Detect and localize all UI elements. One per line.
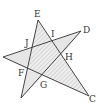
- star-diagram: E D C I J H F G: [0, 0, 100, 103]
- label-g: G: [40, 80, 47, 90]
- label-e: E: [34, 9, 41, 19]
- label-h: H: [65, 52, 73, 62]
- label-i: I: [51, 29, 55, 39]
- label-f: F: [18, 68, 24, 78]
- label-d: D: [83, 25, 90, 35]
- label-j: J: [24, 38, 29, 48]
- label-c: C: [89, 94, 96, 103]
